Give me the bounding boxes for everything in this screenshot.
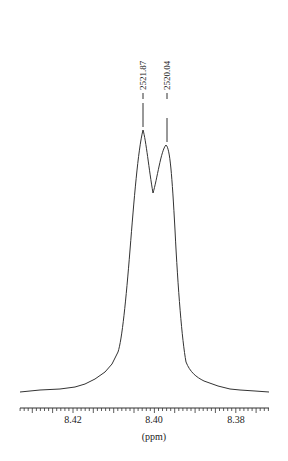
x-axis-ticks (20, 408, 268, 413)
x-axis-label: (ppm) (142, 431, 166, 443)
peak-label-1: 2521.87 (138, 60, 148, 90)
spectrum-line (20, 130, 269, 392)
x-tick-label: 8.38 (227, 414, 245, 425)
nmr-spectrum-chart: 2521.87 2520.04 8.42 8.40 8.38 (ppm) (0, 0, 288, 461)
x-tick-label: 8.42 (64, 414, 82, 425)
x-tick-label: 8.40 (145, 414, 163, 425)
peak-label-2: 2520.04 (162, 60, 172, 90)
